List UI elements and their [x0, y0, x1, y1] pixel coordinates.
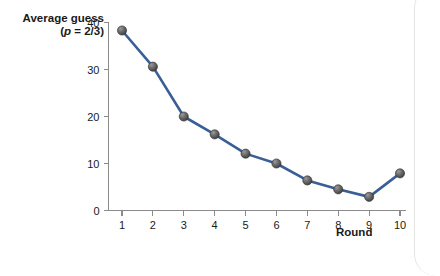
data-point-marker [334, 185, 343, 194]
x-tick-label: 4 [212, 219, 218, 231]
y-axis-title-sub: (p = 2/3) [0, 25, 104, 38]
data-point-marker [303, 176, 312, 185]
y-axis-title: Average guess (p = 2/3) [0, 12, 104, 38]
y-tick-label: 30 [87, 64, 99, 76]
data-point-marker [395, 169, 404, 178]
data-point-marker [148, 62, 157, 71]
y-tick-label: 0 [93, 205, 99, 217]
data-point-marker [241, 149, 250, 158]
data-point-marker [210, 130, 219, 139]
x-tick-label: 1 [119, 219, 125, 231]
x-tick-label: 3 [181, 219, 187, 231]
data-point-marker [365, 192, 374, 201]
x-axis-title: Round [336, 226, 372, 239]
y-tick-label: 10 [87, 158, 99, 170]
data-series [117, 26, 404, 202]
x-tick-label: 10 [394, 219, 406, 231]
y-axis-title-main: Average guess [23, 12, 104, 24]
y-axis-ticks: 010203040 [87, 17, 108, 217]
y-tick-label: 20 [87, 111, 99, 123]
y-axis-sub-rest: = 2/3) [71, 25, 104, 37]
series-markers [117, 26, 404, 202]
data-point-marker [117, 26, 126, 35]
x-tick-label: 7 [304, 219, 310, 231]
data-point-marker [272, 159, 281, 168]
x-tick-label: 2 [150, 219, 156, 231]
data-point-marker [179, 112, 188, 121]
x-tick-label: 6 [273, 219, 279, 231]
axes [109, 23, 406, 211]
x-tick-label: 5 [242, 219, 248, 231]
y-axis-sub-p: p [64, 25, 71, 37]
series-line [122, 30, 400, 196]
